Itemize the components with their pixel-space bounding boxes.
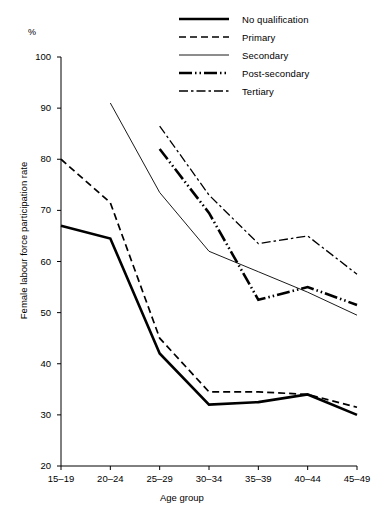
plot-svg (0, 0, 382, 513)
y-tick-label: 20 (25, 460, 51, 471)
series-line-no-qualification (61, 226, 357, 415)
y-tick-label: 100 (25, 51, 51, 62)
x-tick-label: 30–34 (184, 473, 234, 484)
series-lines (61, 103, 357, 415)
plot-area: % 2030405060708090100 15–1920–2425–2930–… (0, 0, 382, 513)
y-tick-label: 60 (25, 256, 51, 267)
y-tick-label: 30 (25, 409, 51, 420)
x-tick-label: 45–49 (332, 473, 382, 484)
x-tick-label: 25–29 (135, 473, 185, 484)
series-line-post-secondary (160, 149, 357, 305)
y-tick-label: 50 (25, 307, 51, 318)
series-line-tertiary (160, 126, 357, 274)
y-tick-label: 80 (25, 153, 51, 164)
x-tick-label: 20–24 (85, 473, 135, 484)
axis-lines (57, 57, 357, 470)
line-chart: No qualification Primary Secondary (0, 0, 382, 513)
y-axis-title: Female labour force participation rate (18, 146, 29, 336)
x-tick-label: 15–19 (36, 473, 86, 484)
x-tick-label: 40–44 (283, 473, 333, 484)
series-line-primary (61, 159, 357, 407)
x-axis-title: Age group (160, 492, 204, 503)
x-tick-label: 35–39 (233, 473, 283, 484)
y-tick-label: 40 (25, 358, 51, 369)
y-tick-label: 90 (25, 102, 51, 113)
series-line-secondary (110, 103, 357, 315)
y-tick-label: 70 (25, 204, 51, 215)
